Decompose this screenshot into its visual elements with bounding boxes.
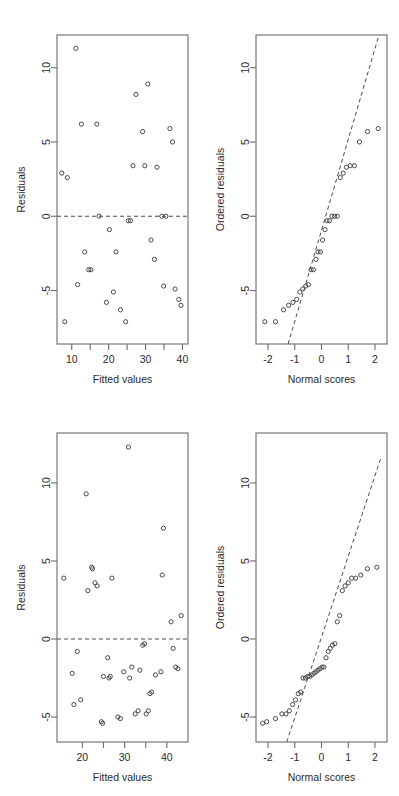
- data-point: [95, 122, 99, 126]
- data-point: [134, 92, 138, 96]
- data-point: [155, 165, 159, 169]
- data-point: [365, 129, 369, 133]
- y-tick-label: 10: [239, 62, 251, 74]
- data-point: [170, 140, 174, 144]
- y-tick-label: 0: [40, 636, 52, 642]
- plot-area: 203040-50510Fitted valuesResiduals: [0, 398, 200, 796]
- data-point: [83, 250, 87, 254]
- panel-residuals-vs-fitted-bottom: 203040-50510Fitted valuesResiduals: [0, 398, 200, 796]
- x-tick-label: 40: [161, 751, 173, 763]
- y-tick-label: 10: [40, 62, 52, 74]
- y-tick-label: -5: [40, 712, 52, 721]
- normal-reference-line: [288, 35, 379, 344]
- data-point: [177, 297, 181, 301]
- data-point: [171, 646, 175, 650]
- data-point: [152, 257, 156, 261]
- plot-frame: [256, 35, 387, 344]
- data-point: [107, 228, 111, 232]
- data-point: [169, 620, 173, 624]
- x-axis-title: Normal scores: [288, 373, 356, 385]
- data-point: [60, 171, 64, 175]
- data-point: [314, 257, 318, 261]
- data-point: [348, 164, 352, 168]
- data-point: [293, 698, 297, 702]
- x-tick-label: 2: [372, 751, 378, 763]
- data-point: [287, 709, 291, 713]
- data-point: [76, 282, 80, 286]
- data-point: [173, 287, 177, 291]
- data-point: [128, 676, 132, 680]
- plot-frame: [57, 433, 188, 742]
- panel-normal-qq-top: -2-1012-50510Normal scoresOrdered residu…: [199, 0, 399, 398]
- y-tick-label: 0: [239, 213, 251, 219]
- data-point: [130, 665, 134, 669]
- data-point: [324, 656, 328, 660]
- x-tick-label: -1: [290, 353, 299, 365]
- data-point: [149, 238, 153, 242]
- data-point: [338, 613, 342, 617]
- data-point: [281, 308, 285, 312]
- figure-canvas: 10203040-50510Fitted valuesResiduals -2-…: [0, 0, 399, 796]
- x-tick-label: 1: [345, 751, 351, 763]
- data-point: [179, 303, 183, 307]
- data-point: [62, 576, 66, 580]
- data-point: [141, 129, 145, 133]
- plot-frame: [57, 35, 188, 344]
- y-tick-label: -5: [239, 712, 251, 721]
- y-tick-label: 5: [40, 558, 52, 564]
- data-point: [84, 492, 88, 496]
- y-tick-label: 5: [239, 139, 251, 145]
- data-point: [106, 656, 110, 660]
- x-axis-title: Fitted values: [93, 771, 153, 783]
- data-point: [341, 171, 345, 175]
- data-point: [291, 702, 295, 706]
- data-point: [143, 164, 147, 168]
- data-point: [79, 698, 83, 702]
- data-point: [104, 300, 108, 304]
- data-point: [365, 567, 369, 571]
- data-point: [101, 674, 105, 678]
- y-tick-label: 0: [239, 636, 251, 642]
- normal-reference-line: [287, 458, 381, 742]
- data-point: [118, 308, 122, 312]
- data-point-group: [263, 126, 381, 323]
- x-tick-label: -1: [290, 751, 299, 763]
- y-tick-label: -5: [40, 286, 52, 295]
- data-point: [335, 214, 339, 218]
- y-axis-title: Ordered residuals: [214, 148, 226, 231]
- data-point: [340, 589, 344, 593]
- y-axis-title: Residuals: [15, 166, 27, 212]
- plot-area: -2-1012-50510Normal scoresOrdered residu…: [199, 0, 399, 398]
- data-point: [136, 709, 140, 713]
- plot-area: -2-1012-50510Normal scoresOrdered residu…: [199, 398, 399, 796]
- data-point-group: [62, 445, 184, 725]
- data-point: [72, 702, 76, 706]
- data-point: [159, 670, 163, 674]
- plot-area: 10203040-50510Fitted valuesResiduals: [0, 0, 200, 398]
- y-tick-label: 10: [40, 477, 52, 489]
- y-axis-title: Ordered residuals: [214, 546, 226, 629]
- data-point: [352, 164, 356, 168]
- data-point: [126, 445, 130, 449]
- data-point: [265, 720, 269, 724]
- data-point: [114, 250, 118, 254]
- data-point: [376, 126, 380, 130]
- data-point: [131, 164, 135, 168]
- data-point: [63, 320, 67, 324]
- panel-normal-qq-bottom: -2-1012-50510Normal scoresOrdered residu…: [199, 398, 399, 796]
- data-point: [273, 716, 277, 720]
- data-point: [110, 576, 114, 580]
- data-point: [70, 671, 74, 675]
- data-point: [179, 613, 183, 617]
- data-point: [287, 303, 291, 307]
- data-point: [338, 176, 342, 180]
- x-tick-label: 0: [319, 751, 325, 763]
- x-tick-label: 2: [372, 353, 378, 365]
- data-point-group: [261, 565, 379, 725]
- data-point: [162, 284, 166, 288]
- data-point: [122, 670, 126, 674]
- data-point: [357, 140, 361, 144]
- data-point: [160, 573, 164, 577]
- data-point: [323, 228, 327, 232]
- x-tick-label: 20: [103, 353, 115, 365]
